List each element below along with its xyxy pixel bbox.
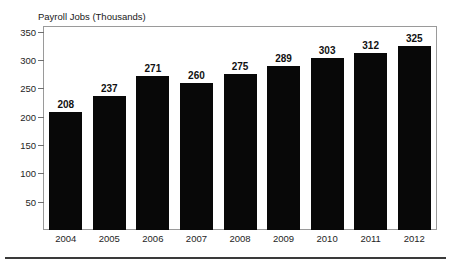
bar-group[interactable]: 208 (49, 27, 82, 230)
x-tick-label: 2006 (130, 233, 175, 244)
bar[interactable] (93, 96, 126, 230)
y-tick-mark (38, 202, 44, 203)
bar[interactable] (267, 66, 300, 230)
y-tick-mark (38, 88, 44, 89)
y-tick-label: 150 (6, 139, 36, 150)
y-tick-label: 50 (6, 196, 36, 207)
bar-value-label: 312 (348, 40, 393, 51)
x-tick-label: 2004 (43, 233, 88, 244)
bar-group[interactable]: 271 (136, 27, 169, 230)
plot-area: 208237271260275289303312325 (44, 27, 436, 230)
bar[interactable] (49, 112, 82, 230)
bar-value-label: 237 (87, 83, 132, 94)
y-tick-mark (38, 32, 44, 33)
bar-group[interactable]: 289 (267, 27, 300, 230)
y-tick-label: 200 (6, 111, 36, 122)
bar-group[interactable]: 303 (311, 27, 344, 230)
y-tick-label: 350 (6, 26, 36, 37)
y-tick-mark (38, 173, 44, 174)
x-tick-label: 2009 (261, 233, 306, 244)
bar[interactable] (311, 58, 344, 230)
y-tick-label: 300 (6, 54, 36, 65)
y-tick-mark (38, 145, 44, 146)
x-tick-label: 2005 (87, 233, 132, 244)
y-axis-title: Payroll Jobs (Thousands) (38, 11, 146, 22)
y-tick-mark (38, 60, 44, 61)
bar-value-label: 208 (43, 99, 88, 110)
bar-value-label: 275 (218, 61, 263, 72)
bar[interactable] (224, 74, 257, 230)
bar-value-label: 303 (305, 45, 350, 56)
bar[interactable] (136, 76, 169, 230)
y-tick-label: 250 (6, 83, 36, 94)
y-axis: 50100150200250300350 (0, 0, 36, 267)
x-axis: 200420052006200720082009201020112012 (44, 233, 436, 249)
bar-chart-figure: Payroll Jobs (Thousands) 501001502002503… (0, 0, 452, 267)
bar-group[interactable]: 275 (224, 27, 257, 230)
bar-value-label: 289 (261, 53, 306, 64)
bar-group[interactable]: 237 (93, 27, 126, 230)
bar[interactable] (180, 83, 213, 230)
bar[interactable] (354, 53, 387, 230)
bar-group[interactable]: 260 (180, 27, 213, 230)
x-tick-label: 2012 (392, 233, 437, 244)
bar-group[interactable]: 325 (398, 27, 431, 230)
y-tick-label: 100 (6, 168, 36, 179)
bar-value-label: 325 (392, 33, 437, 44)
x-tick-label: 2007 (174, 233, 219, 244)
bar-value-label: 271 (130, 63, 175, 74)
y-tick-mark (38, 117, 44, 118)
bar-group[interactable]: 312 (354, 27, 387, 230)
x-tick-label: 2011 (348, 233, 393, 244)
bar[interactable] (398, 46, 431, 230)
bar-value-label: 260 (174, 70, 219, 81)
x-tick-label: 2010 (305, 233, 350, 244)
x-tick-label: 2008 (218, 233, 263, 244)
footer-rule (5, 257, 446, 259)
